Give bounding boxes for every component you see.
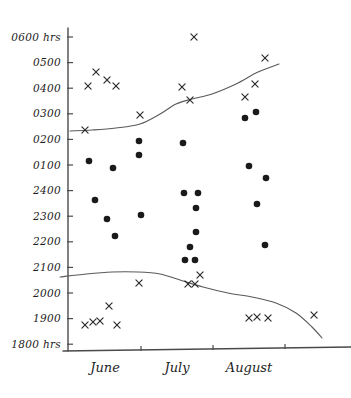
scatter-chart: 0600 hrs05000400030002000100240023002200… [0,0,351,398]
x-data-point [113,83,119,89]
x-data-point [252,81,258,87]
y-axis-tick-label: 2100 [32,261,61,273]
dot-data-point [195,190,202,197]
x-data-point [85,83,91,89]
dot-data-point [181,190,188,197]
dot-data-point [104,216,111,223]
x-data-point [246,315,252,321]
y-axis-tick-label: 1800 hrs [11,338,61,350]
x-data-point [254,314,260,320]
dot-data-point [86,158,93,165]
x-axis-tick-label: August [225,360,273,375]
dot-data-point [242,115,249,122]
x-axis-tick-label: June [87,360,120,375]
y-axis-tick-label: 1900 [33,312,61,324]
y-axis-tick-label: 0500 [33,56,61,68]
filled-dot-series [86,109,270,264]
dot-data-point [253,109,260,116]
dot-data-point [192,257,199,264]
trend-curves [60,64,322,338]
x-data-point [191,34,197,40]
y-axis-tick-label: 0400 [33,82,61,94]
dot-data-point [136,138,143,145]
x-data-point [311,312,317,318]
y-axis-tick-label: 2400 [32,184,61,196]
x-data-point [137,112,143,118]
x-data-point [90,319,96,325]
x-axis-tick-label: July [161,360,190,375]
dot-data-point [193,229,200,236]
dot-data-point [112,233,119,240]
y-axis-tick-label: 0200 [33,133,61,145]
x-axis-line [63,347,351,351]
y-axis-tick-labels: 0600 hrs05000400030002000100240023002200… [11,31,61,350]
dot-data-point [254,201,261,208]
sunrise-curve-path [70,64,279,131]
x-data-point [179,84,185,90]
y-axis-tick-label: 0600 hrs [11,31,61,43]
x-data-point [136,280,142,286]
x-data-point [106,303,112,309]
x-data-point [197,272,203,278]
y-axis-tick-label: 0300 [33,107,61,119]
x-data-point [82,322,88,328]
dot-data-point [110,165,117,172]
x-data-point [185,281,191,287]
dot-data-point [263,175,270,182]
x-axis-tick-labels: JuneJulyAugust [87,360,273,375]
y-axis-tick-label: 0100 [33,159,61,171]
y-axis-tick-label: 2200 [32,235,61,247]
x-marker-series [82,34,317,328]
x-data-point [97,318,103,324]
dot-data-point [193,205,200,212]
dot-data-point [138,212,145,219]
dot-data-point [187,244,194,251]
dot-data-point [182,257,189,264]
dot-data-point [246,163,253,170]
x-data-point [93,69,99,75]
dot-data-point [262,242,269,249]
y-axis-tick-label: 2000 [32,287,61,299]
chart-container: 0600 hrs05000400030002000100240023002200… [0,0,351,398]
dot-data-point [136,152,143,159]
x-data-point [242,94,248,100]
dot-data-point [92,197,99,204]
x-data-point [265,315,271,321]
dot-data-point [180,140,187,147]
x-data-point [262,55,268,61]
x-data-point [104,77,110,83]
x-data-point [114,322,120,328]
y-axis-tick-label: 2300 [32,210,61,222]
